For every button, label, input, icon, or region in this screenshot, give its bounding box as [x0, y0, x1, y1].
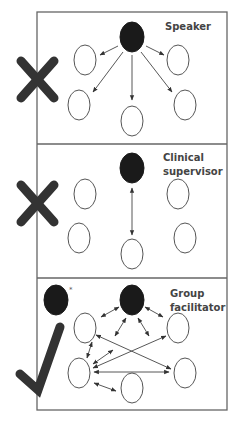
panel-label: Clinical [163, 152, 204, 163]
member-node [167, 45, 189, 75]
member-node [68, 358, 90, 388]
leader-node [120, 153, 144, 183]
member-node [174, 223, 196, 253]
member-node [174, 90, 196, 120]
asterisk-marker: * [69, 286, 73, 294]
member-node [74, 45, 96, 75]
member-node [174, 358, 196, 388]
arrow [100, 46, 118, 55]
panel-group-facilitator: Group facilitator * [20, 285, 225, 403]
leader-node [120, 22, 144, 52]
member-node [68, 223, 90, 253]
member-node [121, 373, 143, 403]
panel-label: Group [170, 288, 204, 299]
member-node [167, 179, 189, 209]
panel-label: supervisor [163, 166, 223, 177]
member-node [121, 106, 143, 136]
member-node [74, 313, 96, 343]
member-node [74, 179, 96, 209]
group-roles-diagram: Speaker Clinical supervisor Gr [0, 0, 238, 429]
arrow [146, 46, 164, 55]
member-node [167, 313, 189, 343]
arrow [93, 52, 123, 92]
leader-node [120, 285, 144, 315]
panel-label: facilitator [170, 302, 225, 313]
panel-speaker: Speaker [21, 21, 211, 136]
check-icon [20, 327, 60, 390]
member-node [121, 239, 143, 269]
panel-label: Speaker [165, 21, 211, 32]
member-node [68, 90, 90, 120]
panel-clinical-supervisor: Clinical supervisor [21, 152, 223, 269]
observer-node [44, 285, 68, 315]
